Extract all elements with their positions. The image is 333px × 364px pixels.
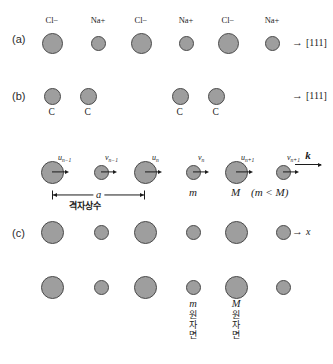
displacement-vector-u-n [145,169,163,175]
row-c-atom-M-3 [225,221,248,244]
atom-c-2 [80,88,97,105]
atomic-plane-char-large-1: 원 [225,310,247,320]
wavevector-symbol: k [295,150,321,161]
ion-label-cl-2: Cl− [131,15,152,25]
atom-label-c-3: C [177,107,183,117]
atomic-plane-char-small-1: 원 [182,310,204,320]
ion-na-3 [265,36,280,51]
ion-cl-3 [218,33,239,54]
row-label-b: (b) [12,90,25,102]
ion-label-cl-1: Cl− [42,15,63,25]
atomic-plane-char-small-2: 자 [182,320,204,330]
atom-c-3 [172,88,189,105]
row-d-atom-m-1 [94,280,109,295]
ion-na-2 [179,36,194,51]
atom-label-c-1: C [49,107,55,117]
wavevector-indicator: k [295,150,321,165]
row-d-atom-M-2 [134,276,157,299]
lattice-vibration-figure: (a) (b) (c) Cl− Na+ Cl− Na+ Cl− Na+ → [1… [0,0,333,364]
mass-label-large: M [231,186,240,198]
row-label-c: (c) [12,227,25,239]
ion-label-na-3: Na+ [262,15,283,25]
atom-label-c-2: C [85,107,91,117]
atomic-plane-char-small-3: 면 [182,330,204,340]
ion-na-1 [91,36,106,51]
displacement-vector-v-n-minus-1 [101,169,118,175]
displacement-vector-v-n [193,169,210,175]
direction-indicator-a: → [111] [292,37,327,48]
atomic-plane-symbol-small: m [182,298,204,310]
lattice-constant-korean-label: 격자상수 [69,199,101,212]
atom-label-c-4: C [213,107,219,117]
displacement-vector-u-n-minus-1 [52,169,70,175]
atom-c-1 [44,88,61,105]
displacement-label-u-n-minus-1: un−1 [58,153,71,162]
row-d-atom-m-2 [186,280,201,295]
direction-arrow-icon-c: → [292,226,303,237]
mass-inequality-label: (m < M) [251,186,288,198]
atomic-plane-label-small: m 원 자 면 [182,298,204,340]
mass-label-small: m [189,186,197,198]
row-c-atom-m-2 [186,225,201,240]
row-c-atom-m-1 [94,225,109,240]
row-c-atom-m-3 [276,225,291,240]
direction-indicator-b: → [111] [292,90,327,101]
displacement-vector-v-n-plus-1 [283,169,300,175]
ion-label-na-1: Na+ [88,15,109,25]
displacement-label-u-n: un [152,153,159,162]
ion-label-cl-3: Cl− [218,15,239,25]
wavevector-arrow-icon [295,164,321,165]
row-d-atom-m-3 [276,280,291,295]
ion-cl-2 [131,33,152,54]
row-c-atom-M-2 [134,221,157,244]
direction-indicator-c: → x [292,226,310,237]
displacement-label-v-n-minus-1: vn−1 [105,153,118,162]
atomic-plane-symbol-large: M [225,298,247,310]
displacement-label-v-n: vn [198,153,204,162]
atomic-plane-label-large: M 원 자 면 [225,298,247,340]
ion-cl-1 [42,33,63,54]
displacement-label-u-n-plus-1: un+1 [241,153,254,162]
atomic-plane-char-large-3: 면 [225,330,247,340]
direction-arrow-icon-a: → [292,37,303,48]
row-d-atom-M-1 [41,276,64,299]
direction-label-a: [111] [306,37,327,48]
displacement-vector-u-n-plus-1 [236,169,254,175]
direction-label-b: [111] [306,90,327,101]
direction-label-c: x [306,226,310,237]
atomic-plane-char-large-2: 자 [225,320,247,330]
direction-arrow-icon-b: → [292,90,303,101]
row-d-atom-M-3 [225,276,248,299]
atom-c-4 [208,88,225,105]
row-label-a: (a) [12,33,25,45]
ion-label-na-2: Na+ [176,15,197,25]
row-c-atom-M-1 [41,221,64,244]
